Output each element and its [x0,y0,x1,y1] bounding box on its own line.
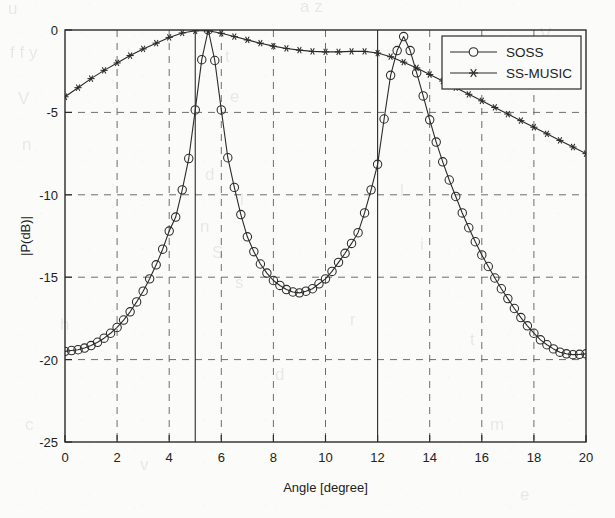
x-tick-label: 10 [318,450,332,465]
data-point-marker [244,37,251,43]
y-tick-label: -5 [46,105,58,120]
data-point-marker [153,40,160,46]
data-point-marker [127,52,134,58]
legend[interactable]: SOSS SS-MUSIC [442,36,581,89]
y-tick-label: 0 [51,23,58,38]
y-tick-label: -25 [39,435,58,450]
data-point-marker [140,46,147,52]
data-point-marker [465,91,472,97]
y-tick-label: -20 [39,353,58,368]
true-doa-reference-lines [195,30,377,442]
legend-label-ss-music: SS-MUSIC [506,66,572,81]
data-point-marker [257,40,264,46]
data-point-marker [504,111,511,117]
axis-ticks [65,30,586,442]
spatial-spectrum-chart: 02468101214161820 0-5-10-15-20-25 Angle … [0,0,615,518]
data-point-marker [569,144,576,150]
x-tick-label: 18 [527,450,541,465]
x-axis-label: Angle [degree] [283,480,368,495]
data-point-marker [387,54,394,60]
data-point-marker [361,48,368,54]
x-tick-label: 6 [218,450,225,465]
figure-canvas: u a z f f y t V V e n d l n S s l i r h … [0,0,615,518]
data-point-marker [309,48,316,54]
data-point-marker [491,104,498,110]
x-tick-label: 14 [422,450,436,465]
y-axis-tick-labels: 0-5-10-15-20-25 [39,23,58,450]
y-tick-label: -15 [39,270,58,285]
data-point-marker [517,118,524,124]
x-tick-label: 20 [579,450,593,465]
legend-label-soss: SOSS [506,45,544,60]
x-tick-label: 0 [61,450,68,465]
data-point-marker [400,59,407,65]
data-point-marker [296,47,303,53]
data-point-marker [335,49,342,55]
x-axis-tick-labels: 02468101214161820 [61,450,593,465]
x-tick-label: 2 [113,450,120,465]
x-tick-label: 12 [370,450,384,465]
data-point-marker [556,137,563,143]
y-axis-label: |P(dB)| [18,216,33,256]
grid-lines [65,30,586,442]
data-point-marker [283,45,290,51]
x-tick-label: 8 [270,450,277,465]
legend-marker-circle-icon [469,48,478,57]
x-tick-label: 16 [475,450,489,465]
y-tick-label: -10 [39,188,58,203]
plot-frame [65,30,586,442]
data-point-marker [231,33,238,39]
data-point-marker [543,131,550,137]
data-point-marker [348,48,355,54]
legend-box [442,36,581,89]
x-tick-label: 4 [166,450,173,465]
data-point-marker [179,30,186,36]
